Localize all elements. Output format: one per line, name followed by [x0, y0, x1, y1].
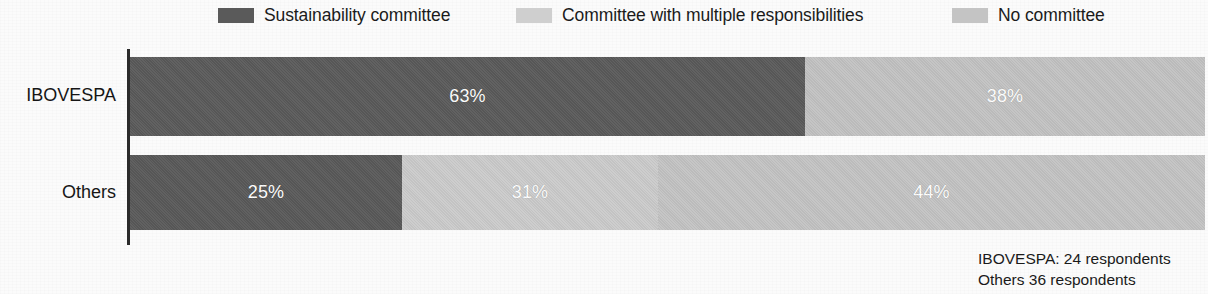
bar-row-others: 25% 31% 44% [130, 155, 1205, 230]
bar-value-label-others-no-committee: 44% [913, 182, 950, 203]
footnote-line-others: Others 36 respondents [978, 269, 1171, 290]
category-label-ibovespa: IBOVESPA [26, 85, 116, 106]
stacked-bar-chart: Sustainability committee Committee with … [0, 0, 1208, 294]
bar-segment-others-multiple-responsibilities[interactable]: 31% [402, 155, 658, 230]
bar-value-label-others-multiple-responsibilities: 31% [512, 182, 549, 203]
bar-segment-ibovespa-no-committee[interactable]: 38% [805, 57, 1205, 136]
bar-value-label-ibovespa-sustainability-committee: 63% [449, 86, 486, 107]
bar-segment-others-sustainability-committee[interactable]: 25% [130, 155, 402, 230]
bar-segment-ibovespa-sustainability-committee[interactable]: 63% [130, 57, 805, 136]
footnote-line-ibovespa: IBOVESPA: 24 respondents [978, 248, 1171, 269]
bar-row-ibovespa: 63% 38% [130, 57, 1205, 136]
bar-segment-others-no-committee[interactable]: 44% [658, 155, 1205, 230]
chart-footnote: IBOVESPA: 24 respondents Others 36 respo… [978, 248, 1171, 290]
bar-value-label-ibovespa-no-committee: 38% [987, 86, 1024, 107]
bar-value-label-others-sustainability-committee: 25% [248, 182, 285, 203]
category-label-others: Others [62, 182, 116, 203]
